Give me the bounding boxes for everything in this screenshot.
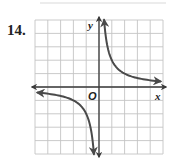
branch-quadrant-I [104,20,160,81]
origin-label: O [88,90,97,102]
branch-quadrant-III [38,93,94,154]
y-axis-label: y [86,19,93,31]
x-axis-label: x [154,90,161,102]
graph: y x O [0,0,172,167]
axes [32,17,166,157]
